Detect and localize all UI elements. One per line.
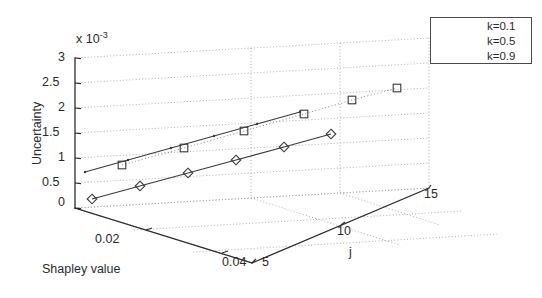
legend-label-k01: k=0.1 <box>487 19 515 34</box>
y-axis-exponent-base: x 10 <box>76 32 100 46</box>
z-tick-5: 5 <box>262 255 269 269</box>
series-k09 <box>84 111 301 173</box>
legend-item-k01[interactable]: k=0.1 <box>430 19 532 34</box>
y-tick-3: 3 <box>58 50 65 64</box>
z-tick-15: 15 <box>424 187 438 201</box>
y-tick-2: 2 <box>58 100 65 114</box>
x-tick-004: 0.04 <box>222 255 246 269</box>
legend-item-k05[interactable]: k=0.5 <box>430 34 532 49</box>
grid-back-wall <box>75 38 429 208</box>
z-axis-label: j <box>349 245 352 259</box>
x-axis-label: Shapley value <box>42 262 121 276</box>
z-tick-10: 10 <box>337 224 351 238</box>
series-k05 <box>87 129 336 204</box>
x-axis-ticks <box>146 228 228 253</box>
legend-label-k05: k=0.5 <box>487 34 515 49</box>
y-tick-1: 1 <box>58 150 65 164</box>
y-tick-2p5: 2.5 <box>42 75 59 89</box>
series-k01 <box>118 84 401 169</box>
y-tick-0: 0 <box>58 195 65 209</box>
legend-label-k09: k=0.9 <box>487 49 515 64</box>
y-axis-ticks <box>75 58 81 209</box>
y-axis-exponent-power: -3 <box>100 30 108 40</box>
y-tick-0p5: 0.5 <box>42 175 59 189</box>
x-tick-002: 0.02 <box>95 232 119 246</box>
y-axis-exponent: x 10-3 <box>76 30 108 46</box>
y-axis-label: Uncertainty <box>30 102 44 165</box>
y-tick-1p5: 1.5 <box>42 125 59 139</box>
legend-item-k09[interactable]: k=0.9 <box>430 49 532 64</box>
